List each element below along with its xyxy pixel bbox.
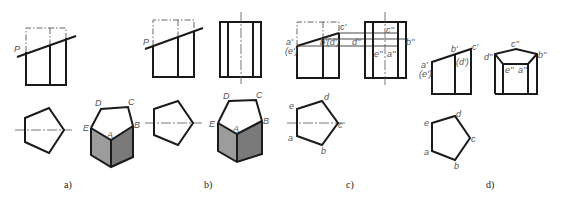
- top-view-d: e d c b a: [424, 109, 476, 171]
- label-b: b: [321, 146, 326, 156]
- caption-d: d): [486, 179, 494, 191]
- label-e-prime: (e'): [419, 69, 432, 79]
- label-b-2prime: b'': [538, 50, 547, 60]
- label-a-2prime: a'': [518, 65, 527, 75]
- vertex-label-E: E: [83, 123, 90, 133]
- label-b-prime: b': [451, 44, 458, 54]
- label-e: e: [289, 101, 294, 111]
- vertex-label-C: C: [256, 90, 263, 100]
- top-view-c: e d c b a: [287, 92, 345, 156]
- front-view-d: a' (e') b' (d') c': [419, 42, 479, 94]
- side-view-b: [220, 12, 261, 84]
- label-d-2prime: d'': [352, 37, 361, 47]
- label-c: c: [471, 134, 476, 144]
- label-a: a: [288, 133, 293, 143]
- isometric-view-b: D C B A E: [209, 90, 269, 162]
- side-view-c: c'' d'' b'' e'' a'': [352, 12, 415, 85]
- label-c-prime: c': [472, 42, 479, 52]
- label-d-prime: (d'): [456, 57, 469, 67]
- label-d: d: [324, 92, 330, 102]
- caption-a: a): [64, 179, 72, 191]
- label-b: b: [454, 161, 459, 171]
- label-c-2prime: c'': [386, 25, 394, 35]
- panel-d: a' (e') b' (d') c' c'' d'' b'' e'' a'' e…: [419, 39, 547, 191]
- label-c: c: [338, 120, 343, 130]
- label-e-2prime: e'': [505, 65, 514, 75]
- front-view-b: P: [143, 20, 203, 77]
- label-b-2prime: b'': [406, 37, 415, 47]
- label-c-2prime: c'': [511, 39, 519, 49]
- label-e-prime: (e'): [285, 46, 298, 56]
- plane-label-p: P: [143, 37, 149, 47]
- panel-b: P D C B A E b): [143, 12, 269, 191]
- label-d: d: [456, 109, 462, 119]
- vertex-label-B: B: [263, 116, 269, 126]
- top-view-a: [15, 108, 72, 153]
- plane-label-p: P: [14, 44, 20, 54]
- caption-c: c): [346, 179, 354, 191]
- panel-a: P D C B A E a): [14, 28, 140, 191]
- vertex-label-D: D: [223, 91, 230, 101]
- vertex-label-B: B: [134, 120, 140, 130]
- projection-diagram: P D C B A E a) P: [0, 0, 562, 206]
- vertex-label-A: A: [232, 124, 239, 134]
- vertex-label-E: E: [209, 119, 216, 129]
- panel-c: a' (e') b'(d') c' c'' d'' b'' e'' a'' e …: [285, 12, 415, 191]
- vertex-label-C: C: [128, 97, 135, 107]
- front-view-a: P: [14, 28, 76, 85]
- label-a-2prime: a'': [387, 49, 396, 59]
- caption-b: b): [204, 179, 212, 191]
- side-view-d: c'' d'' b'' e'' a'': [484, 39, 547, 94]
- vertex-label-D: D: [95, 98, 102, 108]
- isometric-view-a: D C B A E: [83, 97, 140, 167]
- label-a: a: [424, 147, 429, 157]
- label-c-prime: c': [340, 22, 347, 32]
- top-view-b: [145, 101, 202, 145]
- label-e-2prime: e'': [374, 49, 383, 59]
- vertex-label-A: A: [106, 130, 113, 140]
- label-d-2prime: d'': [484, 52, 493, 62]
- label-e: e: [424, 118, 429, 128]
- label-b-d-prime: b'(d'): [320, 37, 339, 47]
